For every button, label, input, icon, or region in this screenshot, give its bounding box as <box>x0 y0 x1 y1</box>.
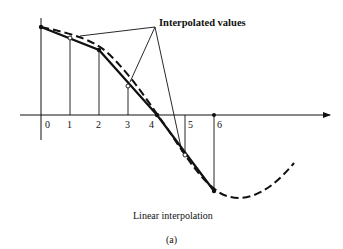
true-function-curve <box>41 27 294 198</box>
annotation-label: Interpolated values <box>159 17 246 28</box>
caption: Linear interpolation <box>133 210 213 221</box>
sample-points <box>39 25 216 193</box>
annotation-pointers <box>80 27 182 152</box>
tick-label-4: 4 <box>149 120 154 130</box>
subcaption: (a) <box>166 234 177 245</box>
tick-label-1: 1 <box>67 120 72 130</box>
tick-label-2: 2 <box>96 120 101 130</box>
tick-label-6: 6 <box>217 120 222 130</box>
tick-label-5: 5 <box>188 120 193 130</box>
tick-label-3: 3 <box>125 120 130 130</box>
interpolated-points <box>68 36 187 157</box>
tick-label-0: 0 <box>45 120 50 130</box>
linear-interpolation-line <box>41 27 214 191</box>
